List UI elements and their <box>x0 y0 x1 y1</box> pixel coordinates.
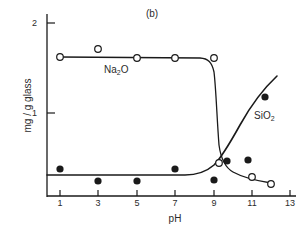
sio2-point <box>171 165 178 172</box>
x-tick-label-11: 11 <box>247 198 256 208</box>
na2o-point <box>249 174 256 181</box>
na2o-point <box>95 46 102 53</box>
y-axis-label: mg / g glass <box>22 51 33 161</box>
sio2-curve <box>47 76 277 175</box>
na2o-point <box>268 181 275 188</box>
na2o-data-points <box>57 46 275 188</box>
x-axis-label: pH <box>169 213 182 224</box>
series-label-sio2: SiO2 <box>254 110 275 122</box>
y-axis-ticks <box>47 23 55 113</box>
na2o-point <box>57 54 64 61</box>
sio2-point <box>94 177 101 184</box>
sio2-point <box>133 177 140 184</box>
sio2-point <box>244 156 251 163</box>
series-label-na2o: Na2O <box>104 64 128 76</box>
x-tick-label-9: 9 <box>211 198 216 208</box>
x-tick-label-5: 5 <box>134 198 139 208</box>
figure-panel: (b) 2 1 1 3 5 7 9 11 13 mg / g glass pH … <box>0 0 303 240</box>
x-tick-label-13: 13 <box>285 198 295 208</box>
sio2-label-sub: 2 <box>271 115 275 122</box>
x-tick-label-3: 3 <box>95 198 100 208</box>
sio2-data-points <box>56 93 268 184</box>
na2o-point <box>216 160 223 167</box>
sio2-point <box>261 93 268 100</box>
sio2-point <box>210 176 217 183</box>
na2o-point <box>211 55 218 62</box>
na2o-label-pre: Na <box>104 64 117 75</box>
na2o-label-post: O <box>121 64 129 75</box>
x-axis-ticks <box>60 190 290 196</box>
na2o-point <box>134 55 141 62</box>
sio2-label-pre: SiO <box>254 110 271 121</box>
y-tick-label-1: 1 <box>32 108 37 118</box>
x-tick-label-1: 1 <box>57 198 62 208</box>
sio2-point <box>223 157 230 164</box>
y-tick-label-2: 2 <box>32 18 37 28</box>
na2o-point <box>172 55 179 62</box>
na2o-curve <box>60 57 271 183</box>
sio2-point <box>56 165 63 172</box>
x-tick-label-7: 7 <box>172 198 177 208</box>
panel-label: (b) <box>146 8 158 19</box>
